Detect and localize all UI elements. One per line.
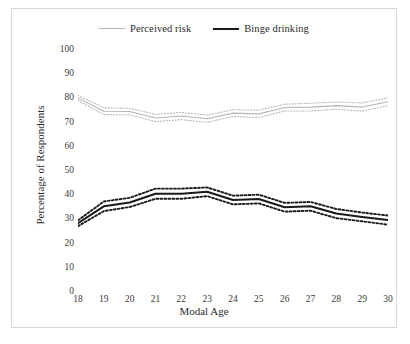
y-tick-label: 50 bbox=[50, 165, 74, 175]
x-tick-label: 18 bbox=[68, 294, 88, 304]
y-tick-label: 10 bbox=[50, 262, 74, 272]
y-tick-label: 40 bbox=[50, 189, 74, 199]
x-tick-label: 26 bbox=[275, 294, 295, 304]
y-tick-label: 60 bbox=[50, 141, 74, 151]
series-perceived-risk bbox=[78, 95, 388, 122]
y-tick-label: 30 bbox=[50, 213, 74, 223]
legend-line-swatch-perceived-risk bbox=[99, 28, 125, 29]
x-tick-label: 23 bbox=[197, 294, 217, 304]
legend-item-perceived-risk: Perceived risk bbox=[99, 23, 191, 34]
series-binge-drinking bbox=[78, 187, 388, 226]
x-tick-label: 25 bbox=[249, 294, 269, 304]
x-tick-label: 28 bbox=[326, 294, 346, 304]
x-tick-label: 21 bbox=[146, 294, 166, 304]
y-axis-title: Percentage of Respondents bbox=[34, 75, 46, 255]
y-tick-label: 20 bbox=[50, 238, 74, 248]
y-tick-label: 70 bbox=[50, 117, 74, 127]
x-tick-label: 27 bbox=[301, 294, 321, 304]
chart-legend: Perceived risk Binge drinking bbox=[12, 23, 396, 34]
y-tick-label: 80 bbox=[50, 92, 74, 102]
legend-label-binge-drinking: Binge drinking bbox=[244, 23, 309, 34]
legend-line-swatch-binge-drinking bbox=[213, 28, 239, 30]
x-tick-label: 30 bbox=[378, 294, 398, 304]
legend-item-binge-drinking: Binge drinking bbox=[213, 23, 309, 34]
y-tick-label: 100 bbox=[50, 44, 74, 54]
x-tick-label: 24 bbox=[223, 294, 243, 304]
y-tick-label: 90 bbox=[50, 68, 74, 78]
chart-figure: Perceived risk Binge drinking Percentage… bbox=[11, 8, 397, 328]
x-axis-tick-labels: 18192021222324252627282930 bbox=[78, 294, 388, 308]
x-tick-label: 20 bbox=[120, 294, 140, 304]
x-tick-label: 19 bbox=[94, 294, 114, 304]
plot-area bbox=[78, 49, 388, 291]
confidence-band-upper bbox=[78, 95, 388, 115]
legend-label-perceived-risk: Perceived risk bbox=[130, 23, 191, 34]
y-axis-tick-labels: 0102030405060708090100 bbox=[46, 49, 74, 291]
x-tick-label: 22 bbox=[171, 294, 191, 304]
x-tick-label: 29 bbox=[352, 294, 372, 304]
chart-plot-svg bbox=[78, 49, 388, 291]
